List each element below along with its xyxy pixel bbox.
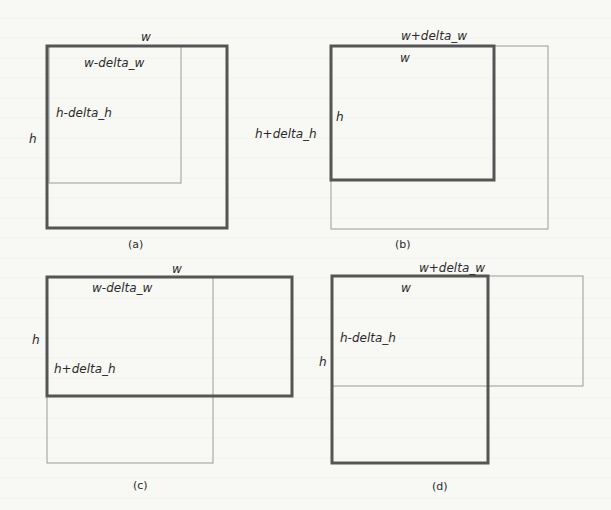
panel-a-caption: (a) — [128, 238, 143, 251]
resize-diagram-figure: w w-delta_w h-delta_h h (a) w+delta_w w … — [0, 0, 611, 510]
panel-b-thin-box — [331, 46, 548, 229]
panel-b-label-inner-side: h — [336, 110, 344, 124]
panel-a-label-top: w — [141, 30, 151, 44]
panel-c-thick-box — [47, 277, 292, 396]
panel-a-label-inner-side: h-delta_h — [56, 106, 112, 120]
panel-c-caption: (c) — [133, 479, 148, 492]
panel-d-label-inner-top: w — [401, 281, 411, 295]
panel-c-label-inner-top: w-delta_w — [92, 281, 153, 295]
panel-d-label-inner-side: h-delta_h — [340, 331, 396, 345]
panel-c-label-top: w — [172, 262, 182, 276]
panel-c: w w-delta_w h h+delta_h (c) — [32, 262, 292, 492]
figure-page: w w-delta_w h-delta_h h (a) w+delta_w w … — [0, 0, 611, 510]
panel-c-label-inner-side: h+delta_h — [54, 362, 116, 376]
panel-a-thick-box — [47, 46, 227, 228]
panel-b-label-side: h+delta_h — [255, 127, 317, 141]
panel-d-label-side: h — [319, 355, 327, 369]
panel-a: w w-delta_w h-delta_h h (a) — [29, 30, 227, 251]
panel-b-thick-box — [331, 46, 494, 180]
panel-a-label-inner-top: w-delta_w — [84, 56, 145, 70]
panel-b-label-inner-top: w — [400, 51, 410, 65]
panel-b: w+delta_w w h h+delta_h (b) — [255, 29, 548, 251]
panel-d-thick-box — [332, 276, 488, 463]
panel-d-label-top: w+delta_w — [419, 261, 485, 275]
panel-b-caption: (b) — [395, 238, 411, 251]
panel-b-label-top: w+delta_w — [401, 29, 467, 43]
panel-c-label-side: h — [32, 333, 40, 347]
panel-d-caption: (d) — [432, 480, 448, 493]
panel-a-label-side: h — [29, 132, 37, 146]
panel-d: w+delta_w w h-delta_h h (d) — [319, 261, 583, 493]
